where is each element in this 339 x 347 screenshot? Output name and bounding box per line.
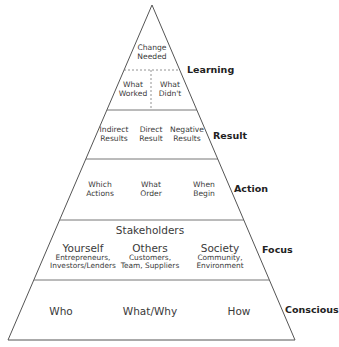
cell-line: Actions: [86, 190, 114, 199]
cell-which-actions: Which Actions: [86, 181, 114, 198]
cell-negative-results: Negative Results: [170, 126, 204, 143]
cell-line: Needed: [137, 53, 166, 62]
cell-line: Didn't: [159, 90, 182, 99]
cell-line: Order: [140, 190, 162, 199]
cell-line: Team, Suppliers: [121, 262, 180, 270]
cell-change-needed: Change Needed: [137, 44, 166, 61]
cell-what-why: What/Why: [123, 305, 177, 317]
cell-line: Begin: [193, 190, 215, 199]
cell-what-order: What Order: [140, 181, 162, 198]
tier-label-result: Result: [213, 130, 247, 141]
cell-what-didnt: What Didn't: [159, 81, 182, 98]
tier-label-learning: Learning: [187, 64, 234, 75]
tier-label-action: Action: [234, 183, 268, 194]
cell-line: Worked: [119, 90, 147, 99]
cell-line: Results: [100, 135, 129, 144]
cell-yourself: Yourself Entrepreneurs, Investors/Lender…: [50, 242, 116, 271]
cell-what-worked: What Worked: [119, 81, 147, 98]
cell-line: Result: [139, 135, 162, 144]
cell-how: How: [228, 305, 251, 317]
cell-line: Results: [170, 135, 204, 144]
tier-label-focus: Focus: [262, 244, 293, 255]
cell-who: Who: [49, 305, 72, 317]
stakeholders-heading: Stakeholders: [116, 224, 184, 236]
cell-line: Investors/Lenders: [50, 262, 116, 270]
cell-others: Others Customers, Team, Suppliers: [121, 242, 180, 271]
cell-line: Environment: [196, 262, 243, 270]
tier-label-conscious: Conscious: [285, 304, 339, 315]
cell-when-begin: When Begin: [193, 181, 215, 198]
cell-direct-result: Direct Result: [139, 126, 162, 143]
cell-society: Society Community, Environment: [196, 242, 243, 271]
cell-indirect-results: Indirect Results: [100, 126, 129, 143]
